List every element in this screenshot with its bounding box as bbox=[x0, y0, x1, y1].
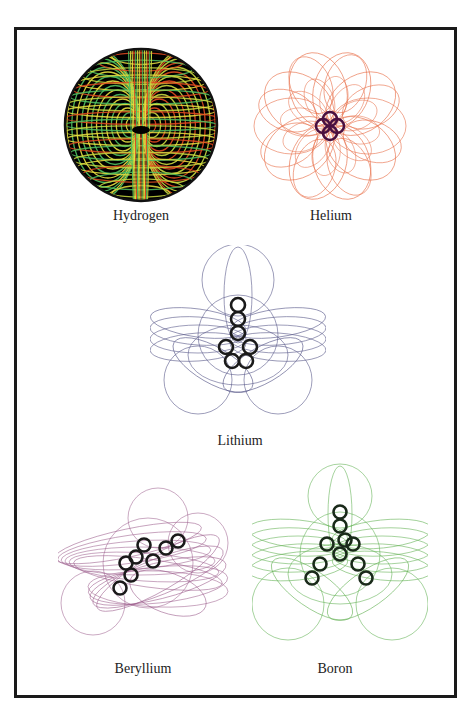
beryllium-atom-diagram bbox=[58, 478, 238, 648]
boron-label: Boron bbox=[255, 661, 415, 677]
boron-atom-diagram bbox=[252, 460, 428, 648]
beryllium-label: Beryllium bbox=[63, 661, 223, 677]
beryllium-orbital-icon bbox=[58, 478, 238, 648]
lithium-orbital-icon bbox=[150, 245, 326, 425]
boron-orbital-icon bbox=[252, 460, 428, 648]
helium-label: Helium bbox=[251, 208, 411, 224]
helium-orbital-icon bbox=[250, 45, 410, 207]
helium-atom-diagram bbox=[250, 45, 410, 207]
hydrogen-atom-diagram bbox=[63, 46, 219, 204]
hydrogen-orbital-icon bbox=[63, 46, 219, 204]
hydrogen-label: Hydrogen bbox=[61, 208, 221, 224]
lithium-label: Lithium bbox=[160, 433, 320, 449]
lithium-atom-diagram bbox=[150, 245, 326, 425]
